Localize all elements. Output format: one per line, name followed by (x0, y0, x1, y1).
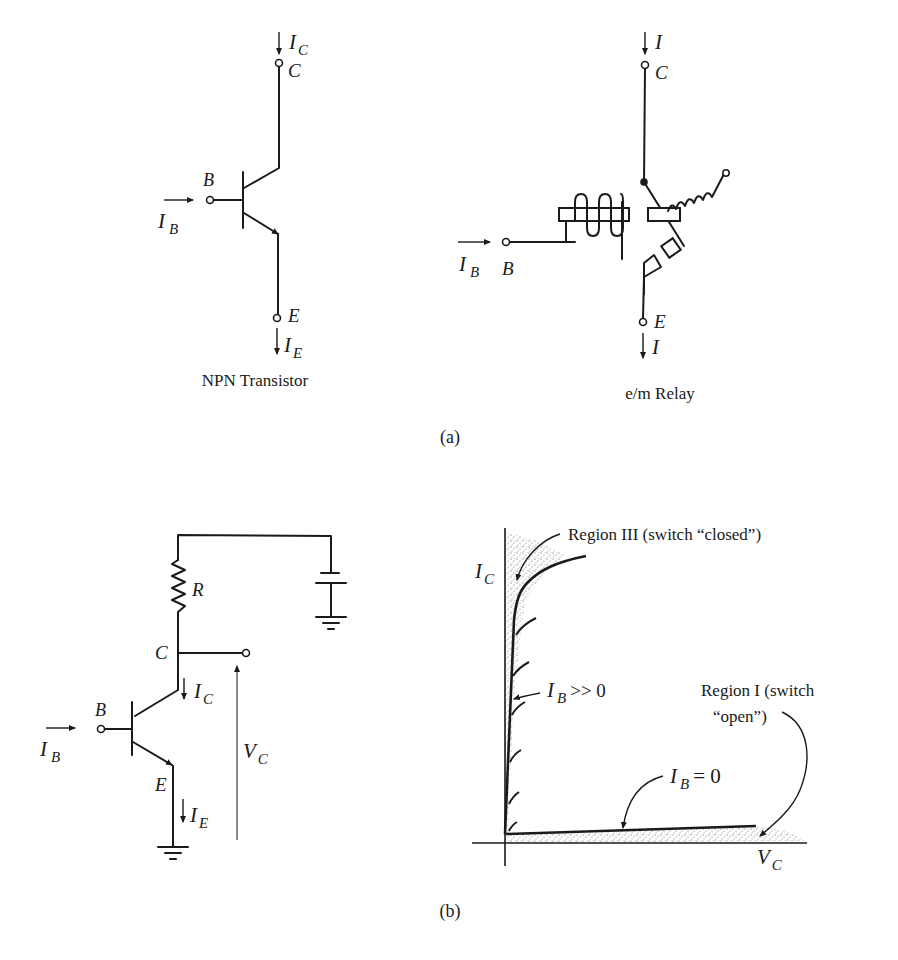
npn-transistor-title: NPN Transistor (202, 371, 309, 390)
resistor-label: R (191, 579, 204, 600)
relay-collector-lead (644, 69, 645, 182)
caption-b: (b) (440, 901, 461, 922)
vc-voltage-label: VC (243, 739, 269, 767)
curve-branch-3 (512, 702, 525, 715)
circuit-base-current-label: IB (39, 737, 60, 765)
relay-emitter-current-label: I (651, 335, 660, 359)
caption-a: (a) (440, 427, 460, 448)
region-3-label: Region III (switch “closed”) (568, 525, 761, 544)
emitter-terminal-icon (274, 315, 281, 322)
collector-lead (244, 67, 279, 188)
transistor-base-label: B (203, 170, 214, 190)
circuit-collector-label: C (155, 642, 168, 663)
em-relay-title: e/m Relay (625, 384, 695, 403)
supply-wire (178, 535, 331, 573)
transistor-collector-current-label: IC (288, 30, 309, 58)
region-1-pointer-arrow-icon (760, 712, 807, 836)
emitter-arrow-icon (244, 213, 278, 234)
region-1-label-line-1: Region I (switch (701, 681, 815, 700)
curve-branch-6 (509, 822, 517, 831)
base-terminal-icon (207, 197, 214, 204)
circuit-emitter-label: E (154, 774, 167, 795)
relay-base-lead (510, 221, 566, 242)
region-1-label-line-2: “open”) (713, 707, 767, 726)
curve-branch-4 (510, 750, 521, 762)
em-relay-symbol (458, 32, 729, 358)
relay-coil-core (559, 208, 629, 221)
transistor-emitter-current-label: IE (283, 333, 302, 361)
circuit-emitter-current-label: IE (189, 803, 208, 831)
ib-zero-pointer-arrow-icon (623, 776, 663, 828)
relay-emitter-terminal-icon (640, 319, 647, 326)
ib-high-pointer-arrow-icon (514, 693, 540, 699)
curve-branch-5 (509, 792, 519, 804)
graph-x-axis-label: VC (757, 845, 783, 873)
transistor-emitter-label: E (287, 305, 300, 326)
circuit-base-label: B (95, 700, 106, 720)
circuit-emitter-arrow-icon (133, 742, 172, 765)
relay-base-terminal-icon (503, 239, 510, 246)
resistor-icon (172, 560, 185, 653)
ib-high-label: IB>> 0 (546, 678, 606, 706)
region-3-shading (505, 532, 566, 834)
relay-collector-label: C (655, 62, 668, 83)
relay-emitter-lead (643, 277, 644, 318)
relay-collector-terminal-icon (642, 62, 649, 69)
relay-armature-pad (648, 208, 680, 221)
collector-terminal-icon (276, 60, 283, 67)
output-terminal-icon (243, 650, 250, 657)
circuit-collector-current-label: IC (193, 679, 214, 707)
relay-collector-current-label: I (654, 30, 663, 54)
relay-spring-terminal-icon (723, 170, 729, 176)
ib-zero-label: IB= 0 (669, 764, 721, 792)
figure-canvas: IC C B IB E IE NPN Transistor I C IB B E… (0, 0, 898, 960)
relay-base-label: B (502, 258, 514, 279)
transistor-base-current-label: IB (157, 209, 178, 237)
relay-base-current-label: IB (458, 252, 479, 280)
relay-fixed-contact (644, 255, 661, 294)
relay-emitter-label: E (653, 311, 666, 332)
transistor-collector-label: C (288, 60, 301, 81)
circuit-base-terminal-icon (98, 726, 105, 733)
npn-transistor-symbol (164, 32, 283, 354)
graph-y-axis-label: IC (474, 559, 495, 587)
relay-spring-icon (668, 174, 724, 211)
relay-moving-contact (661, 238, 680, 257)
